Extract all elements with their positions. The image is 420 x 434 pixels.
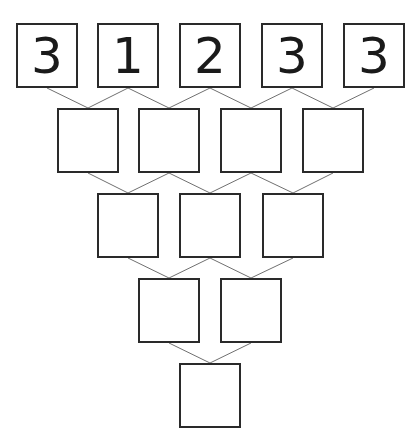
cell-r2-c3[interactable] [220,108,282,173]
cell-r1-c1: 3 [16,23,78,88]
cell-r1-c5: 3 [343,23,405,88]
cell-r2-c1[interactable] [57,108,119,173]
cell-r1-c3: 2 [179,23,241,88]
cell-r2-c4[interactable] [302,108,364,173]
cell-r1-c2: 1 [97,23,159,88]
cell-r5-c1[interactable] [179,363,241,428]
cell-r2-c2[interactable] [138,108,200,173]
cell-r1-c4: 3 [261,23,323,88]
cell-r4-c1[interactable] [138,278,200,343]
number-pyramid: 3 1 2 3 3 [0,0,420,434]
cell-r3-c3[interactable] [262,193,324,258]
cell-r4-c2[interactable] [220,278,282,343]
cell-r3-c1[interactable] [97,193,159,258]
cell-r3-c2[interactable] [179,193,241,258]
